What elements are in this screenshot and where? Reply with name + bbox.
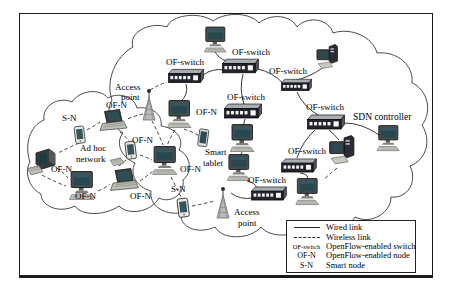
label-of-n: OF-N bbox=[180, 164, 201, 174]
wireless-link bbox=[184, 129, 201, 137]
label-smart-tablet: tablet bbox=[203, 158, 223, 168]
access-point-antenna-icon bbox=[217, 187, 229, 218]
keyboard-icon bbox=[110, 158, 124, 166]
legend-key: OF-switch bbox=[287, 242, 326, 251]
label-of-switch: OF-switch bbox=[288, 146, 326, 156]
label-ad-hoc-network: network bbox=[76, 154, 106, 164]
wired-link bbox=[180, 84, 187, 102]
label-access-point: Access bbox=[115, 82, 141, 92]
of-switch-icon bbox=[168, 69, 203, 82]
of-switch-icon bbox=[222, 59, 258, 73]
label-s-n: S-N bbox=[62, 113, 77, 123]
network-architecture-figure: OF-switch OF-switch OF-switch OF-switch … bbox=[0, 0, 453, 292]
wireless-link bbox=[150, 82, 167, 90]
label-of-switch: OF-switch bbox=[166, 57, 204, 67]
wired-link bbox=[231, 193, 252, 198]
wireless-link bbox=[140, 171, 153, 181]
laptop-icon bbox=[100, 110, 127, 131]
wireless-link bbox=[140, 155, 152, 160]
wireless-link bbox=[58, 143, 79, 153]
wireless-link bbox=[167, 130, 175, 146]
laptop-icon bbox=[110, 169, 138, 191]
of-node-desktop-icon bbox=[227, 155, 250, 181]
wireless-link bbox=[323, 168, 337, 180]
of-node-desktop-icon bbox=[231, 125, 255, 152]
label-of-switch: OF-switch bbox=[248, 175, 286, 185]
label-of-n: OF-N bbox=[51, 164, 72, 174]
wired-link bbox=[345, 123, 379, 135]
legend-label: OpenFlow-enabled node bbox=[326, 251, 410, 260]
smartphone-icon bbox=[177, 198, 190, 218]
label-of-n: OF-N bbox=[132, 135, 153, 145]
smartphone-icon bbox=[74, 126, 86, 144]
label-access-point: Access bbox=[234, 207, 260, 217]
wireless-link bbox=[127, 114, 143, 119]
wired-link-sample bbox=[294, 227, 320, 228]
legend-label: Wired link bbox=[326, 223, 362, 232]
wireless-link bbox=[87, 122, 100, 130]
of-switch-icon bbox=[252, 187, 287, 200]
label-of-switch: OF-switch bbox=[227, 92, 265, 102]
of-node-desktop-icon bbox=[153, 147, 177, 175]
wireless-link-sample bbox=[294, 237, 320, 238]
legend-key: S-N bbox=[287, 261, 326, 270]
of-switch-icon bbox=[308, 115, 345, 129]
label-s-n: S-N bbox=[171, 184, 186, 194]
wired-link bbox=[329, 130, 339, 140]
legend-key: OF-N bbox=[287, 251, 326, 260]
label-of-n: OF-N bbox=[75, 191, 96, 201]
of-switch-icon bbox=[281, 79, 311, 90]
sdn-controller-icon bbox=[377, 125, 399, 150]
workstation-icon bbox=[330, 136, 354, 164]
of-node-desktop-icon bbox=[204, 27, 226, 52]
devices bbox=[28, 27, 400, 218]
of-switch-icon bbox=[225, 104, 262, 118]
of-switch-icon bbox=[282, 159, 317, 172]
legend-row-s-n: S-N Smart node bbox=[287, 261, 415, 270]
label-of-switch: OF-switch bbox=[269, 66, 307, 76]
of-node-desktop-icon bbox=[296, 178, 319, 204]
label-of-n: OF-N bbox=[196, 107, 217, 117]
wireless-link bbox=[192, 201, 214, 206]
legend: Wired link Wireless link OF-switch OpenF… bbox=[286, 220, 416, 273]
workstation-icon bbox=[317, 44, 338, 68]
label-access-point: point bbox=[121, 92, 140, 102]
wireless-link bbox=[120, 132, 129, 141]
cloud-outlines bbox=[27, 14, 427, 236]
label-of-switch: OF-switch bbox=[232, 47, 270, 57]
wireless-link bbox=[42, 175, 66, 186]
wired-link bbox=[203, 70, 224, 75]
smart-tablet-icon bbox=[198, 129, 209, 147]
wireless-link bbox=[98, 184, 110, 191]
label-sdn-controller: SDN controller bbox=[353, 112, 411, 122]
of-node-desktop-icon bbox=[168, 101, 192, 128]
label-smart-tablet: Smart bbox=[205, 147, 227, 157]
access-point-antenna-icon bbox=[143, 89, 155, 120]
label-of-switch: OF-switch bbox=[306, 102, 344, 112]
label-ad-hoc-network: Ad hoc bbox=[80, 143, 106, 153]
legend-row-wired: Wired link bbox=[287, 223, 415, 232]
legend-label: Smart node bbox=[326, 261, 365, 270]
label-of-n: OF-N bbox=[130, 191, 151, 201]
label-access-point: point bbox=[238, 218, 257, 228]
